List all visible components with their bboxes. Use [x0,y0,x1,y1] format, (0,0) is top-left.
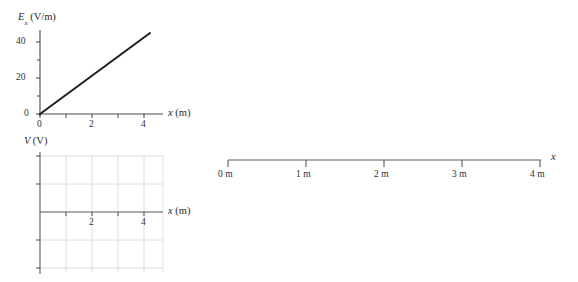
number-line-tick-label-1: 1 m [296,170,311,180]
potential-graph-x-axis-title: x (m) [168,206,190,217]
field-graph-series-line [40,33,150,114]
field-graph-x-unit: (m) [175,107,190,118]
potential-graph-x-symbol: x [168,205,173,216]
number-line-axis [228,160,541,167]
number-line-axis-symbol: x [551,152,556,163]
number-line-tick-label-4: 4 m [530,170,545,180]
number-line-tick-label-0: 0 m [218,170,233,180]
potential-graph-x-tick-4: 4 [141,218,146,228]
field-graph-y-symbol: E [18,11,24,22]
field-graph-canvas [0,0,578,282]
field-graph-x-tick-0: 0 [37,120,42,130]
number-line-tick-label-2: 2 m [374,170,389,180]
potential-graph-y-symbol: V [24,135,30,146]
field-graph-x-tick-4: 4 [141,120,146,130]
field-graph-y-axis-title: Ex (V/m) [18,12,56,25]
field-graph-y-subscript: x [25,19,28,27]
field-graph-x-axis-title: x (m) [168,108,190,119]
potential-graph-y-unit: (V) [33,135,48,146]
field-graph-y-unit: (V/m) [30,11,56,22]
field-graph-x-tick-2: 2 [89,120,94,130]
field-graph-x-symbol: x [168,107,173,118]
potential-graph-y-axis-title: V (V) [24,136,47,147]
number-line-tick-label-3: 3 m [452,170,467,180]
field-graph-y-tick-40: 40 [16,37,26,47]
field-graph-y-tick-20: 20 [16,73,26,83]
potential-graph-x-tick-2: 2 [89,218,94,228]
physics-figure: Ex (V/m) x (m) 0 20 40 0 2 4 V (V) x (m)… [0,0,578,282]
field-graph-y-tick-0: 0 [24,109,29,119]
potential-graph-x-unit: (m) [175,205,190,216]
field-graph-axes [36,30,163,118]
